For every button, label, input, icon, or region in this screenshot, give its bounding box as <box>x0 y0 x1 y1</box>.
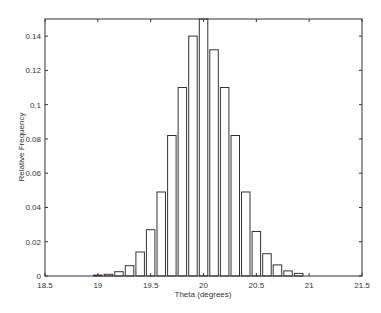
y-tick-label: 0.14 <box>25 32 41 41</box>
y-tick-label: 0.02 <box>25 238 41 247</box>
x-tick-label: 21 <box>305 281 314 290</box>
histogram-bar <box>210 50 219 276</box>
histogram-bar <box>125 266 134 276</box>
histogram-bar <box>263 254 272 276</box>
histogram-bar <box>220 88 229 277</box>
histogram-bar <box>157 192 166 276</box>
histogram-bar <box>284 271 293 276</box>
histogram-bar <box>136 252 145 276</box>
x-tick-label: 20.5 <box>249 281 265 290</box>
histogram-bar <box>178 88 187 277</box>
y-tick-label: 0.08 <box>25 135 41 144</box>
y-axis-label: Relative Frequency <box>17 113 26 182</box>
x-axis-label: Theta (degrees) <box>175 290 232 299</box>
x-tick-label: 19.5 <box>143 281 159 290</box>
histogram-bar <box>199 19 208 276</box>
x-tick-label: 19 <box>93 281 102 290</box>
histogram-bar <box>242 192 251 276</box>
histogram-bar <box>231 136 240 277</box>
y-tick-label: 0 <box>37 272 42 281</box>
histogram-bar <box>115 272 124 276</box>
histogram-chart: 18.51919.52020.52121.5 00.020.040.060.08… <box>0 0 381 313</box>
histogram-bar <box>168 136 177 277</box>
histogram-bar <box>146 230 155 276</box>
y-tick-label: 0.1 <box>30 101 42 110</box>
y-tick-label: 0.12 <box>25 66 41 75</box>
x-tick-label: 20 <box>199 281 208 290</box>
histogram-bars <box>94 19 303 276</box>
histogram-bar <box>273 265 282 276</box>
x-tick-label: 21.5 <box>354 281 370 290</box>
histogram-bar <box>252 232 261 277</box>
x-tick-label: 18.5 <box>37 281 53 290</box>
histogram-bar <box>189 36 198 276</box>
y-tick-label: 0.04 <box>25 203 41 212</box>
y-tick-label: 0.06 <box>25 169 41 178</box>
